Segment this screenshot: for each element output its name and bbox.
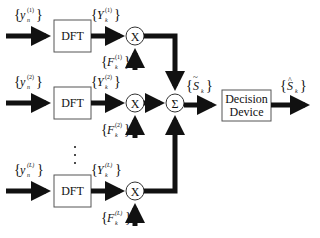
diagram-canvas: DFT X { y (1) n } { Y (1) k } { F (1) k … bbox=[0, 0, 320, 238]
decision-label-line2: Device bbox=[230, 105, 264, 119]
svg-text:n: n bbox=[27, 172, 30, 178]
svg-text:(L): (L) bbox=[27, 162, 34, 169]
decision-label-line1: Decision bbox=[225, 92, 268, 106]
output-label-L: { Y (L) k } bbox=[91, 162, 122, 178]
svg-text:^: ^ bbox=[288, 76, 292, 85]
svg-text:k: k bbox=[105, 84, 108, 90]
svg-text:}: } bbox=[124, 54, 131, 69]
dft-label-2: DFT bbox=[61, 96, 84, 110]
svg-text:(1): (1) bbox=[105, 7, 112, 14]
svg-text:y: y bbox=[19, 75, 26, 89]
svg-text:(L): (L) bbox=[115, 210, 122, 217]
svg-text:}: } bbox=[114, 7, 121, 22]
input-label-L: { y (L) n } bbox=[14, 162, 44, 178]
summer-symbol: Σ bbox=[172, 97, 179, 111]
branch-L: DFT X { y (L) n } { Y (L) k } { F (L) k … bbox=[6, 162, 144, 226]
svg-text:Y: Y bbox=[97, 75, 105, 89]
output-label-1: { Y (1) k } bbox=[91, 7, 121, 23]
svg-text:Y: Y bbox=[97, 8, 105, 22]
svg-text:F: F bbox=[106, 211, 115, 225]
svg-text:k: k bbox=[115, 132, 118, 138]
output-label-2: { Y (2) k } bbox=[91, 74, 121, 90]
svg-text:k: k bbox=[295, 88, 298, 94]
svg-text:(2): (2) bbox=[27, 74, 34, 81]
svg-text:y: y bbox=[19, 163, 26, 177]
svg-text:Y: Y bbox=[97, 163, 105, 177]
summer-output-label: { S ~ k } bbox=[186, 72, 213, 94]
weight-label-L: { F (L) k } bbox=[101, 210, 132, 226]
input-label-2: { y (2) n } bbox=[14, 74, 43, 90]
svg-text:(2): (2) bbox=[105, 74, 112, 81]
svg-text:(2): (2) bbox=[115, 122, 122, 129]
svg-text:}: } bbox=[115, 162, 122, 177]
weight-label-2: { F (2) k } bbox=[101, 122, 131, 138]
svg-text:k: k bbox=[115, 64, 118, 70]
svg-text:}: } bbox=[125, 210, 132, 225]
svg-text:}: } bbox=[206, 78, 213, 93]
svg-text:}: } bbox=[114, 74, 121, 89]
svg-text:n: n bbox=[27, 84, 30, 90]
dft-label-L: DFT bbox=[61, 184, 84, 198]
svg-text:(1): (1) bbox=[115, 54, 122, 61]
ellipsis-dots bbox=[74, 146, 76, 164]
branch-L-to-summer bbox=[144, 120, 175, 191]
input-label-1: { y (1) n } bbox=[14, 7, 43, 23]
svg-text:~: ~ bbox=[193, 72, 198, 82]
svg-text:k: k bbox=[105, 172, 108, 178]
dft-label-1: DFT bbox=[61, 29, 84, 43]
multiplier-symbol-1: X bbox=[131, 30, 140, 44]
svg-text:k: k bbox=[105, 17, 108, 23]
svg-text:}: } bbox=[36, 74, 43, 89]
decision-output-label: { S ^ k } bbox=[280, 76, 307, 94]
svg-text:y: y bbox=[19, 8, 26, 22]
svg-text:}: } bbox=[37, 162, 44, 177]
block-diagram: DFT X { y (1) n } { Y (1) k } { F (1) k … bbox=[0, 0, 320, 238]
svg-text:}: } bbox=[36, 7, 43, 22]
svg-text:n: n bbox=[27, 17, 30, 23]
svg-text:}: } bbox=[300, 78, 307, 93]
weight-label-1: { F (1) k } bbox=[101, 54, 131, 70]
svg-text:k: k bbox=[201, 88, 204, 94]
svg-text:(1): (1) bbox=[27, 7, 34, 14]
branch-1: DFT X { y (1) n } { Y (1) k } { F (1) k … bbox=[6, 7, 144, 70]
svg-text:F: F bbox=[106, 123, 115, 137]
svg-text:{: { bbox=[186, 78, 193, 93]
branch-2: DFT X { y (2) n } { Y (2) k } { F (2) k … bbox=[6, 74, 160, 138]
svg-text:F: F bbox=[106, 55, 115, 69]
svg-text:{: { bbox=[280, 78, 287, 93]
multiplier-symbol-L: X bbox=[131, 185, 140, 199]
branch-1-to-summer bbox=[144, 36, 175, 86]
svg-text:}: } bbox=[124, 122, 131, 137]
multiplier-symbol-2: X bbox=[131, 97, 140, 111]
svg-text:(L): (L) bbox=[105, 162, 112, 169]
svg-text:k: k bbox=[115, 220, 118, 226]
